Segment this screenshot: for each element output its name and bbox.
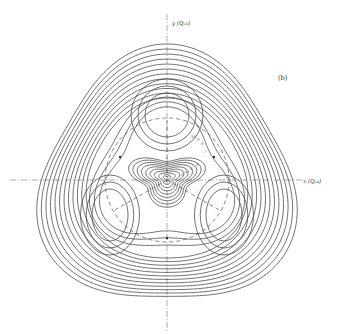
saddle-point xyxy=(213,156,215,158)
trough-radial-right xyxy=(167,180,221,211)
panel-label: (b) xyxy=(278,74,288,82)
contour-label: -6 xyxy=(195,163,199,167)
contour-label: -7 xyxy=(203,150,207,154)
contour-label: -8 xyxy=(200,142,204,146)
saddle-point xyxy=(119,156,121,158)
minimum-contour xyxy=(86,182,134,248)
saddle-point xyxy=(166,237,168,239)
y-axis-label: y (Q₂₃) xyxy=(171,20,190,27)
minimum-contour xyxy=(194,175,253,255)
minimum-contour xyxy=(80,175,139,255)
contour-diagram: y (Q₂₃) x (Q₂₄) (b) -10 -9 -8 -7 -6 -5 -… xyxy=(0,0,342,334)
trough-radial-left xyxy=(113,180,167,211)
minimum-contour xyxy=(200,182,248,248)
x-axis-label: x (Q₂₄) xyxy=(303,178,321,184)
